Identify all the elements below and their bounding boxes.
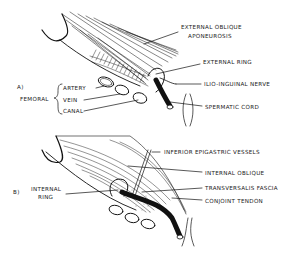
femoral-label: FEMORAL [20,96,49,102]
vein-label: VEIN [63,97,77,103]
inguinal-anatomy-drawing [0,0,305,263]
internal-oblique-label: INTERNAL OBLIQUE [205,170,264,176]
spermatic-cord-label: SPERMATIC CORD [205,104,259,110]
artery-label: ARTERY [63,85,86,91]
external-oblique-label-line2: APONEUROSIS [188,33,232,39]
internal-ring-label-line1: INTERNAL [31,186,61,192]
inferior-epigastric-label: INFERIOR EPIGASTRIC VESSELS [164,149,260,155]
transversalis-fascia-label: TRANSVERSALIS FASCIA [205,185,278,191]
internal-ring-label-line2: RING [38,194,53,200]
panel-b-id: B) [13,189,20,195]
conjoint-tendon-label: CONJOINT TENDON [205,198,263,204]
external-ring-label: EXTERNAL RING [203,59,252,65]
canal-label: CANAL [63,108,83,114]
external-oblique-label-line1: EXTERNAL OBLIQUE [181,24,242,30]
panel-a-id: A) [17,84,24,90]
ilio-inguinal-nerve-label: ILIO-INGUINAL NERVE [204,81,270,87]
